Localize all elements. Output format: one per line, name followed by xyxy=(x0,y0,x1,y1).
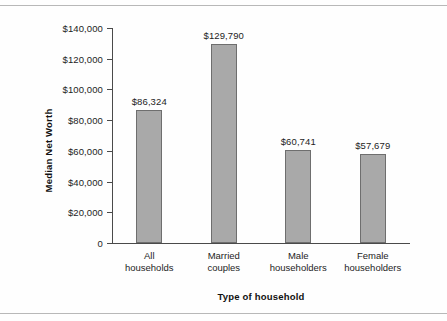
bar xyxy=(136,110,162,243)
x-axis-category-label-line: couples xyxy=(207,262,240,274)
y-axis-tick-mark xyxy=(107,28,112,29)
y-axis-tick-mark xyxy=(107,89,112,90)
x-axis-title: Type of household xyxy=(112,291,410,302)
y-axis-tick-mark xyxy=(107,243,112,244)
x-axis-category-label-line: households xyxy=(125,262,174,274)
bar-chart: 0$20,000$40,000$60,000$80,000$100,000$12… xyxy=(0,0,447,321)
bar-value-label: $86,324 xyxy=(132,96,167,107)
x-axis-category-label: Marriedcouples xyxy=(207,250,240,273)
bar-value-label: $129,790 xyxy=(204,30,244,41)
y-axis-title-text: Median Net Worth xyxy=(44,108,55,192)
bar xyxy=(211,44,237,243)
y-axis-tick-mark xyxy=(107,182,112,183)
y-axis-tick-label: $80,000 xyxy=(68,115,103,126)
y-axis-tick-label: $20,000 xyxy=(68,207,103,218)
x-axis-category-label-line: householders xyxy=(344,262,401,274)
y-axis-tick-mark xyxy=(107,151,112,152)
y-axis-tick-label: $60,000 xyxy=(68,145,103,156)
y-axis-tick-label: 0 xyxy=(98,238,103,249)
plot-area: 0$20,000$40,000$60,000$80,000$100,000$12… xyxy=(112,28,410,243)
x-axis-category-label-line: All xyxy=(125,250,174,262)
y-axis-tick-mark xyxy=(107,212,112,213)
x-axis-category-label-line: Male xyxy=(270,250,327,262)
x-axis-category-label: Allhouseholds xyxy=(125,250,174,273)
bar-value-label: $57,679 xyxy=(355,140,390,151)
y-axis-tick-label: $40,000 xyxy=(68,176,103,187)
bar-value-label: $60,741 xyxy=(281,136,316,147)
y-axis-tick-mark xyxy=(107,120,112,121)
x-axis-category-label-line: Married xyxy=(207,250,240,262)
y-axis-tick-mark xyxy=(107,59,112,60)
chart-page: 0$20,000$40,000$60,000$80,000$100,000$12… xyxy=(0,0,447,321)
bar xyxy=(285,150,311,243)
x-axis-category-label: Malehouseholders xyxy=(270,250,327,273)
x-axis-category-label: Femalehouseholders xyxy=(344,250,401,273)
y-axis-tick-label: $120,000 xyxy=(63,53,103,64)
x-axis-line xyxy=(112,243,410,244)
x-axis-category-label-line: householders xyxy=(270,262,327,274)
y-axis-title: Median Net Worth xyxy=(41,85,57,215)
bar xyxy=(360,154,386,243)
y-axis-tick-label: $140,000 xyxy=(63,23,103,34)
y-axis-tick-label: $100,000 xyxy=(63,84,103,95)
x-axis-category-label-line: Female xyxy=(344,250,401,262)
